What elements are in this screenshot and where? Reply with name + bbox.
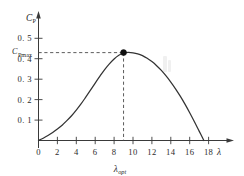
cpmax-label: CPmax <box>12 47 33 57</box>
x-tick-label-12: 12 <box>147 147 156 157</box>
cp-lambda-chart: 0. 5 0. 4 0. 3 0. 2 0. 1 0 2 4 6 8 10 <box>0 0 244 176</box>
x-axis-title: λ <box>216 147 221 157</box>
x-tick-label-8: 8 <box>112 147 117 157</box>
lambda-opt-label: λopt <box>113 164 127 175</box>
peak-point-marker <box>121 50 127 56</box>
x-tick-label-14: 14 <box>166 147 176 157</box>
y-tick-label-0.5: 0. 5 <box>18 33 33 43</box>
x-axis-arrowhead <box>227 138 235 143</box>
x-tick-label-10: 10 <box>128 147 137 157</box>
x-tick-label-18: 18 <box>204 147 213 157</box>
axes <box>36 11 234 148</box>
cp-curve <box>39 52 204 140</box>
lambda-opt-label-subscript: opt <box>118 168 126 175</box>
x-tick-label-2: 2 <box>55 147 60 157</box>
chart-figure: 0. 5 0. 4 0. 3 0. 2 0. 1 0 2 4 6 8 10 <box>0 0 244 176</box>
x-tick-label-0: 0 <box>36 147 41 157</box>
x-tick-label-6: 6 <box>93 147 98 157</box>
y-tick-label-0.1: 0. 1 <box>18 115 33 125</box>
guide-lines <box>39 53 124 141</box>
y-tick-label-0.2: 0. 2 <box>18 95 33 105</box>
y-tick-label-0.3: 0. 3 <box>18 74 33 84</box>
x-tick-label-16: 16 <box>185 147 195 157</box>
x-axis-title-base: λ <box>216 147 221 157</box>
x-tick-labels: 0 2 4 6 8 10 12 14 16 18 <box>36 147 213 157</box>
y-axis-title: CP <box>26 13 37 24</box>
scan-artifact <box>163 56 171 72</box>
y-tick-labels: 0. 5 0. 4 0. 3 0. 2 0. 1 <box>18 33 33 125</box>
cpmax-label-subscript: Pmax <box>18 51 33 58</box>
x-tick-label-4: 4 <box>74 147 79 157</box>
lambda-opt-label-base: λ <box>113 164 118 174</box>
y-axis-arrowhead <box>36 11 41 19</box>
y-axis-title-subscript: P <box>33 17 37 24</box>
